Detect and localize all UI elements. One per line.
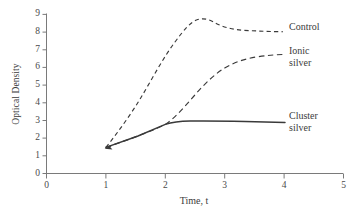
x-tick-label-5: 5 bbox=[341, 181, 346, 191]
series-label-ionic-silver-line2: silver bbox=[289, 57, 311, 68]
y-tick-label-6: 6 bbox=[35, 63, 40, 73]
y-tick-label-5: 5 bbox=[35, 80, 40, 90]
series-label-control: Control bbox=[289, 21, 320, 33]
y-tick-label-8: 8 bbox=[35, 27, 40, 37]
y-tick-label-2: 2 bbox=[35, 133, 40, 143]
x-tick-label-1: 1 bbox=[104, 181, 109, 191]
series-line-control bbox=[106, 19, 283, 148]
x-tick-label-4: 4 bbox=[282, 181, 287, 191]
series-label-cluster-silver-line1: Cluster bbox=[289, 110, 318, 121]
x-tick-marks bbox=[47, 174, 344, 179]
y-tick-label-0: 0 bbox=[35, 169, 40, 179]
y-tick-label-1: 1 bbox=[35, 151, 40, 161]
series-label-ionic-silver-line1: Ionic bbox=[289, 45, 310, 56]
series-label-cluster-silver-line2: silver bbox=[289, 122, 311, 133]
x-tick-label-3: 3 bbox=[222, 181, 227, 191]
x-tick-label-0: 0 bbox=[44, 181, 49, 191]
series-line-cluster-silver bbox=[106, 121, 285, 147]
series-label-cluster-silver: Cluster silver bbox=[289, 110, 318, 133]
series-label-ionic-silver: Ionic silver bbox=[289, 45, 311, 68]
y-tick-marks bbox=[43, 14, 47, 173]
y-tick-label-3: 3 bbox=[35, 116, 40, 126]
y-tick-label-4: 4 bbox=[35, 98, 40, 108]
y-tick-label-7: 7 bbox=[35, 45, 40, 55]
x-axis-title: Time, t bbox=[180, 195, 209, 206]
y-tick-label-9: 9 bbox=[35, 10, 40, 20]
x-tick-label-2: 2 bbox=[163, 181, 168, 191]
chart-figure: 0 1 2 3 4 5 6 7 8 9 0 1 2 3 4 5 Time, t … bbox=[0, 0, 363, 216]
y-axis-title: Optical Density bbox=[11, 63, 21, 124]
series-line-ionic-silver bbox=[106, 54, 285, 147]
